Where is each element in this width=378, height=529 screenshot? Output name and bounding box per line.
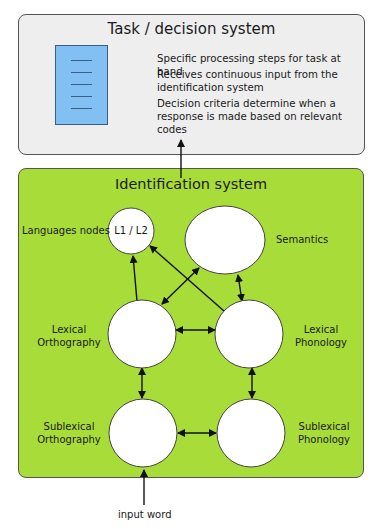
- lexical-orthography-label: Lexical Orthography: [34, 323, 104, 349]
- sublexical-phonology-node: [217, 399, 285, 467]
- sublexical-orthography-label: Sublexical Orthography: [34, 420, 104, 446]
- diagram-connections: [0, 0, 378, 529]
- sublexical-orthography-node: [109, 399, 177, 467]
- sublexical-phonology-label: Sublexical Phonology: [292, 420, 356, 446]
- lexical-phonology-label: Lexical Phonology: [290, 323, 352, 349]
- lexical-phonology-node: [215, 300, 283, 368]
- language-node-inner-label: L1 / L2: [113, 224, 149, 237]
- semantics-label: Semantics: [276, 233, 328, 246]
- language-nodes-label: Languages nodes: [22, 224, 110, 237]
- input-word-label: input word: [118, 509, 171, 520]
- lexical-orthography-node: [108, 300, 176, 368]
- semantics-node: [185, 206, 265, 274]
